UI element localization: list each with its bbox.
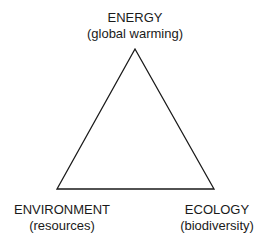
triangle-shape bbox=[57, 49, 214, 189]
ecology-title: ECOLOGY bbox=[172, 202, 262, 218]
ecology-subtitle: (biodiversity) bbox=[172, 218, 262, 234]
environment-title: ENVIRONMENT bbox=[2, 202, 122, 218]
vertex-label-energy: ENERGY (global warming) bbox=[75, 10, 195, 42]
energy-title: ENERGY bbox=[75, 10, 195, 26]
vertex-label-ecology: ECOLOGY (biodiversity) bbox=[172, 202, 262, 234]
environment-subtitle: (resources) bbox=[2, 218, 122, 234]
energy-subtitle: (global warming) bbox=[75, 26, 195, 42]
vertex-label-environment: ENVIRONMENT (resources) bbox=[2, 202, 122, 234]
